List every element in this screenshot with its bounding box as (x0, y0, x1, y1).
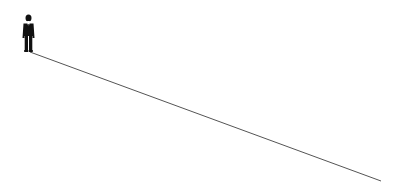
descending-line (30, 52, 381, 181)
businessman-silhouette-icon (23, 15, 35, 53)
scene-svg (0, 0, 406, 192)
illustration: Businessman standing at the start of a l… (0, 0, 406, 192)
